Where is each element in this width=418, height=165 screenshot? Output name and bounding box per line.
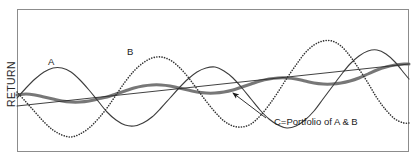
- series-label-a: A: [48, 56, 54, 67]
- chart-canvas: [0, 0, 418, 165]
- series-label-b: B: [127, 46, 133, 57]
- chart-figure: RETURN A B C=Portfolio of A & B: [0, 0, 418, 165]
- portfolio-annotation-label: C=Portfolio of A & B: [274, 116, 358, 127]
